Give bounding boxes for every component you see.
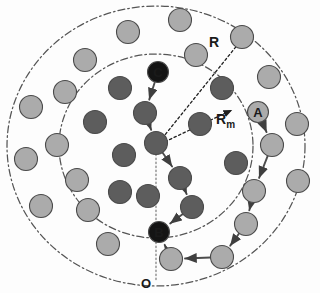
routing-link [170,214,183,224]
label-inner-radius-base: R [216,111,226,127]
node [189,113,212,136]
label-inner-radius: Rm [216,111,235,130]
routing-link [149,83,154,100]
node [30,195,53,218]
node [181,196,204,219]
node [66,169,89,192]
node [134,102,157,125]
node [97,233,120,256]
node [160,248,183,271]
node-label-a: A [253,105,263,120]
node [109,77,132,100]
node [137,185,160,208]
routing-link [249,202,251,210]
node [235,213,258,236]
label-origin: O [141,276,151,291]
node [77,199,100,222]
node [54,81,77,104]
routing-link [163,152,173,166]
node [258,66,281,89]
routing-link [230,233,239,245]
node [211,77,234,100]
node [211,246,234,269]
node [169,9,192,32]
routing-link [262,123,266,133]
node [74,49,97,72]
node [286,113,309,136]
label-outer-radius: R [209,34,219,50]
node [113,144,136,167]
routing-link [184,189,186,194]
routing-link [165,245,167,249]
node [261,134,284,157]
node-label-c: C [153,65,163,80]
network-coverage-figure: CBARRmO [0,0,320,293]
node [20,96,43,119]
node [243,180,266,203]
node [117,21,140,44]
node [185,44,208,67]
node [109,181,132,204]
routing-link [259,156,268,178]
node [15,148,38,171]
node [225,152,248,175]
routing-link [185,257,211,258]
node [84,111,107,134]
node-label-b: B [154,225,163,240]
routing-link [149,124,151,130]
node [231,26,254,49]
diagram-canvas: CBARRmO [0,0,320,293]
node [145,132,168,155]
node [287,170,310,193]
node [169,167,192,190]
label-inner-radius-subscript: m [226,119,235,130]
node [46,134,69,157]
